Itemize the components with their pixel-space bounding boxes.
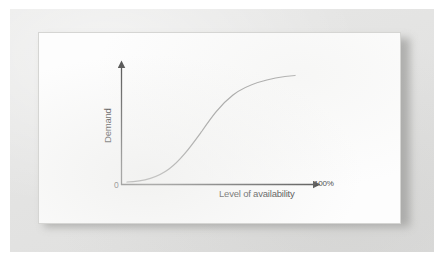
figure-page: Demand Level of availability 100% 0 <box>0 0 447 266</box>
x-axis-title: Level of availability <box>219 188 295 199</box>
figure-card: Demand Level of availability 100% 0 <box>38 32 401 224</box>
y-axis-title: Demand <box>102 108 113 143</box>
sigmoid-chart: Demand Level of availability 100% 0 <box>39 33 400 223</box>
demand-curve <box>127 76 295 183</box>
x-axis-max-label: 100% <box>314 179 334 188</box>
origin-label: 0 <box>114 180 119 190</box>
